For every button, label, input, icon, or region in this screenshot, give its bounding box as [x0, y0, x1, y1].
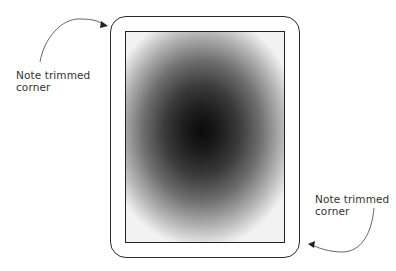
annotation-top-left: Note trimmed corner	[16, 69, 90, 93]
annotation-line-1: Note trimmed	[16, 69, 90, 81]
radial-gradient-panel	[125, 31, 285, 243]
arrow-top-left-icon	[40, 19, 108, 62]
annotation-bottom-right: Note trimmed corner	[315, 193, 389, 217]
annotation-line-2: corner	[315, 205, 389, 217]
annotation-line-2: corner	[16, 81, 90, 93]
annotation-line-1: Note trimmed	[315, 193, 389, 205]
